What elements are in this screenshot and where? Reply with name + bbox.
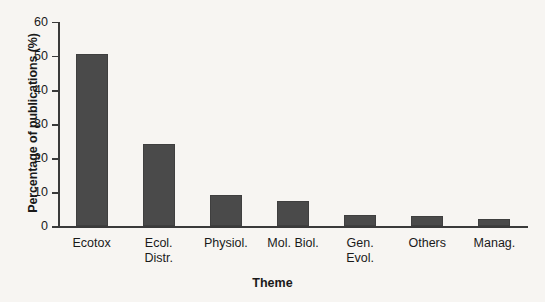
y-tick-mark bbox=[52, 226, 58, 227]
y-tick-label: 10 bbox=[34, 185, 48, 199]
y-tick-label: 0 bbox=[41, 219, 48, 233]
bar bbox=[76, 54, 108, 227]
y-tick-mark bbox=[52, 158, 58, 159]
x-axis-line bbox=[58, 226, 528, 228]
y-tick-mark bbox=[52, 56, 58, 57]
bar bbox=[411, 216, 443, 226]
y-tick-label: 20 bbox=[34, 151, 48, 165]
x-tick-label-line: Distr. bbox=[116, 251, 202, 266]
bar bbox=[344, 215, 376, 227]
bar bbox=[210, 195, 242, 227]
x-tick-label-line: Evol. bbox=[317, 251, 403, 266]
bar bbox=[478, 219, 510, 227]
y-tick-mark bbox=[52, 22, 58, 23]
y-tick-label: 30 bbox=[34, 117, 48, 131]
bar bbox=[277, 201, 309, 227]
y-tick-label: 50 bbox=[34, 49, 48, 63]
y-axis-line bbox=[58, 22, 60, 228]
y-tick-mark bbox=[52, 90, 58, 91]
x-tick-label: Manag. bbox=[451, 236, 537, 251]
bar bbox=[143, 144, 175, 227]
x-tick-label-line: Manag. bbox=[451, 236, 537, 251]
y-tick-mark bbox=[52, 192, 58, 193]
plot-area: 0102030405060 bbox=[58, 22, 528, 228]
y-tick-mark bbox=[52, 124, 58, 125]
bar-chart-figure: Percentage of publications (%) 010203040… bbox=[0, 0, 545, 302]
y-tick-label: 60 bbox=[34, 15, 48, 29]
x-axis-title: Theme bbox=[0, 276, 545, 290]
y-tick-label: 40 bbox=[34, 83, 48, 97]
